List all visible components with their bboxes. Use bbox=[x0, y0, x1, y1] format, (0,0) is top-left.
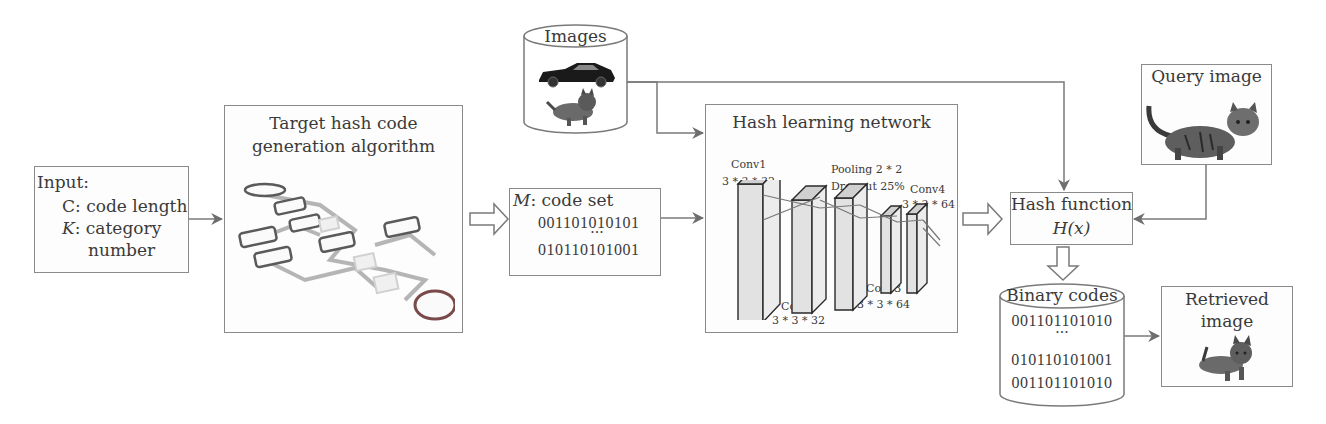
arrow-images-to-network bbox=[627, 82, 703, 133]
k-variable: K bbox=[62, 218, 75, 238]
binary-code-2: 010110101001 bbox=[1000, 351, 1124, 369]
retrieved-cat-image bbox=[1195, 335, 1260, 383]
retrieved-title-line2: image bbox=[1161, 311, 1293, 331]
conv4-block bbox=[907, 214, 917, 293]
code-set-title: M: code set bbox=[513, 190, 613, 210]
target-title-line2: generation algorithm bbox=[224, 136, 463, 156]
car-image bbox=[537, 60, 617, 88]
retrieved-title-line1: Retrieved bbox=[1161, 289, 1293, 309]
code-set-label: : code set bbox=[530, 190, 613, 210]
c-label: : code length bbox=[75, 196, 187, 216]
query-cat-image bbox=[1145, 100, 1270, 162]
hash-function-title: Hash function bbox=[1010, 194, 1133, 214]
hollow-arrow-network-to-hash bbox=[963, 204, 1002, 234]
conv1-label: Conv1 bbox=[731, 158, 766, 171]
conv3-block bbox=[881, 216, 891, 293]
cat-image bbox=[545, 88, 605, 128]
hollow-arrow-hash-to-binary bbox=[1048, 247, 1078, 280]
code-set-code-2: 010110101001 bbox=[538, 241, 639, 259]
input-title: Input: bbox=[37, 172, 89, 192]
binary-db-title: Binary codes bbox=[1000, 285, 1124, 305]
input-category-line2: number bbox=[88, 240, 155, 260]
pooling-label: Pooling 2 * 2 bbox=[831, 163, 902, 176]
input-code-length: C: code length bbox=[62, 196, 187, 216]
cnn-layers-illustration bbox=[705, 180, 958, 320]
arrow-query-to-hash-function bbox=[1134, 164, 1206, 219]
k-label: : category bbox=[75, 218, 162, 238]
conv1-block bbox=[738, 184, 763, 320]
pooling-block bbox=[835, 198, 853, 310]
target-title-line1: Target hash code bbox=[224, 113, 463, 133]
binary-code-3: 001101101010 bbox=[1000, 374, 1124, 392]
flowchart-icon bbox=[235, 180, 455, 325]
binary-ellipsis: ··· bbox=[1000, 324, 1124, 340]
images-db-title: Images bbox=[524, 26, 627, 46]
input-category: K: category bbox=[62, 218, 161, 238]
code-set-ellipsis: ··· bbox=[538, 224, 656, 240]
query-image-title: Query image bbox=[1141, 66, 1272, 86]
network-title: Hash learning network bbox=[705, 112, 958, 132]
hollow-arrow-target-to-codeset bbox=[470, 204, 508, 234]
conv2-block bbox=[792, 200, 812, 313]
c-variable: C bbox=[62, 196, 75, 216]
m-variable: M bbox=[513, 190, 530, 210]
hash-function-formula: H(x) bbox=[1010, 218, 1133, 238]
